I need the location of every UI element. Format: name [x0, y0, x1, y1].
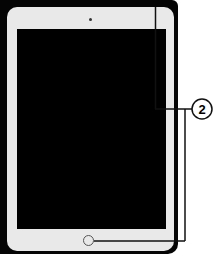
callout-number: 2 [198, 102, 205, 117]
callout-lines: 2 [0, 0, 222, 256]
